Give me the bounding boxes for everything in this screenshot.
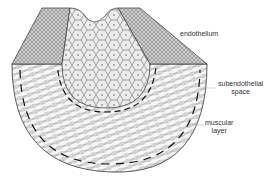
endothelium-label-text: endothelium <box>180 30 218 37</box>
endothelium-label: endothelium <box>180 30 218 38</box>
subendothelial-space-label: subendothelial space <box>218 80 263 96</box>
subendothelial-label-line1: subendothelial <box>218 80 263 88</box>
muscular-layer-label: muscular layer <box>205 119 233 135</box>
muscular-label-line1: muscular <box>205 119 233 127</box>
left-wall-top <box>12 8 70 64</box>
subendothelial-label-line2: space <box>218 88 263 96</box>
muscular-label-line2: layer <box>205 127 233 135</box>
